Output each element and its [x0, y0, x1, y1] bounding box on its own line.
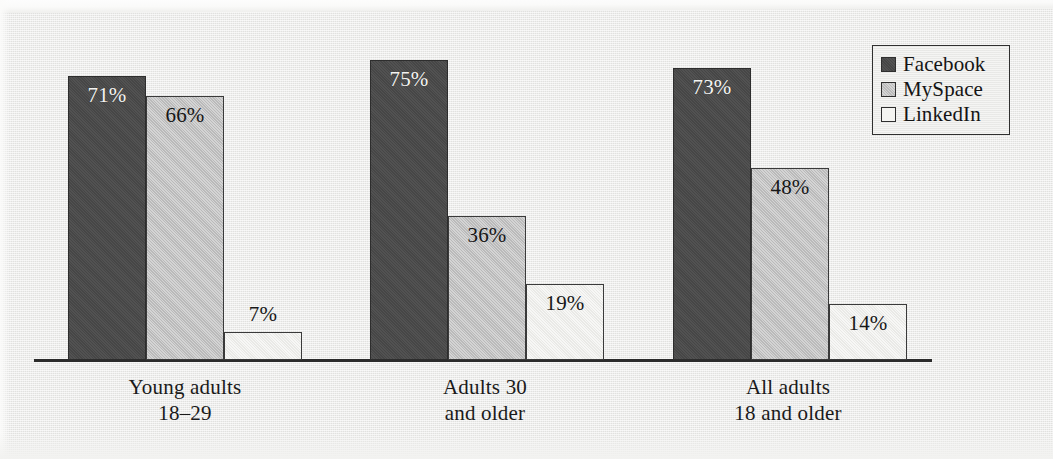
legend-item-myspace[interactable]: MySpace: [881, 77, 1002, 102]
legend-item-facebook[interactable]: Facebook: [881, 52, 1002, 77]
bar-facebook-group-1: [68, 76, 146, 360]
bar-facebook-group-3: [673, 68, 751, 360]
bar-value-label-myspace-group-2: 36%: [448, 225, 526, 246]
legend-swatch-linkedin-icon: [881, 107, 896, 122]
chart-legend: Facebook MySpace LinkedIn: [872, 45, 1010, 135]
bar-value-label-linkedin-group-1: 7%: [224, 304, 302, 325]
category-label-line2: 18–29: [55, 401, 315, 427]
bar-value-label-myspace-group-3: 48%: [751, 177, 829, 198]
category-label-line1: Adults 30: [355, 375, 615, 401]
legend-label-myspace: MySpace: [903, 79, 983, 100]
category-label-group-3: All adults18 and older: [658, 375, 918, 426]
bar-value-label-myspace-group-1: 66%: [146, 105, 224, 126]
scanned-page: 71%66%7%75%36%19%73%48%14% Young adults1…: [0, 0, 1053, 459]
bar-myspace-group-1: [146, 96, 224, 360]
bar-facebook-group-2: [370, 60, 448, 360]
bar-chart-plot-area: 71%66%7%75%36%19%73%48%14% Young adults1…: [0, 0, 1053, 459]
category-label-line2: and older: [355, 401, 615, 427]
bar-value-label-facebook-group-1: 71%: [68, 85, 146, 106]
category-label-line1: Young adults: [55, 375, 315, 401]
legend-swatch-myspace-icon: [881, 82, 896, 97]
bar-linkedin-group-1: [224, 332, 302, 360]
category-label-group-1: Young adults18–29: [55, 375, 315, 426]
category-label-group-2: Adults 30and older: [355, 375, 615, 426]
legend-swatch-facebook-icon: [881, 57, 896, 72]
legend-item-linkedin[interactable]: LinkedIn: [881, 102, 1002, 127]
bar-value-label-facebook-group-2: 75%: [370, 69, 448, 90]
legend-label-facebook: Facebook: [903, 54, 985, 75]
legend-label-linkedin: LinkedIn: [903, 104, 981, 125]
bar-value-label-linkedin-group-3: 14%: [829, 313, 907, 334]
bar-value-label-linkedin-group-2: 19%: [526, 293, 604, 314]
category-label-line2: 18 and older: [658, 401, 918, 427]
category-label-line1: All adults: [658, 375, 918, 401]
bar-value-label-facebook-group-3: 73%: [673, 77, 751, 98]
